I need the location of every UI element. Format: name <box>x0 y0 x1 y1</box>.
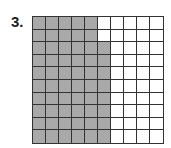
shaded-cell <box>85 93 98 106</box>
unshaded-cell <box>111 105 124 118</box>
shaded-cell <box>59 130 72 143</box>
shaded-cell <box>59 17 72 30</box>
unshaded-cell <box>137 105 150 118</box>
unshaded-cell <box>150 118 163 131</box>
hundred-grid <box>32 16 164 144</box>
shaded-cell <box>59 67 72 80</box>
shaded-cell <box>72 118 85 131</box>
unshaded-cell <box>111 30 124 43</box>
shaded-cell <box>33 130 46 143</box>
shaded-cell <box>33 80 46 93</box>
unshaded-cell <box>124 118 137 131</box>
shaded-cell <box>85 118 98 131</box>
shaded-cell <box>98 55 111 68</box>
shaded-cell <box>46 130 59 143</box>
unshaded-cell <box>124 80 137 93</box>
unshaded-cell <box>137 80 150 93</box>
shaded-cell <box>85 55 98 68</box>
unshaded-cell <box>124 30 137 43</box>
shaded-cell <box>33 67 46 80</box>
shaded-cell <box>85 42 98 55</box>
unshaded-cell <box>150 17 163 30</box>
unshaded-cell <box>124 130 137 143</box>
unshaded-cell <box>111 130 124 143</box>
unshaded-cell <box>137 118 150 131</box>
unshaded-cell <box>111 80 124 93</box>
shaded-cell <box>33 55 46 68</box>
shaded-cell <box>46 17 59 30</box>
problem-number: 3. <box>11 13 24 30</box>
unshaded-cell <box>124 93 137 106</box>
shaded-cell <box>72 80 85 93</box>
shaded-cell <box>59 30 72 43</box>
unshaded-cell <box>137 130 150 143</box>
shaded-cell <box>33 105 46 118</box>
shaded-cell <box>98 118 111 131</box>
shaded-cell <box>72 93 85 106</box>
shaded-cell <box>72 130 85 143</box>
unshaded-cell <box>137 55 150 68</box>
unshaded-cell <box>150 30 163 43</box>
unshaded-cell <box>124 105 137 118</box>
shaded-cell <box>59 105 72 118</box>
unshaded-cell <box>150 80 163 93</box>
unshaded-cell <box>98 17 111 30</box>
shaded-cell <box>72 105 85 118</box>
shaded-cell <box>85 130 98 143</box>
shaded-cell <box>59 118 72 131</box>
unshaded-cell <box>111 55 124 68</box>
unshaded-cell <box>150 42 163 55</box>
shaded-cell <box>85 17 98 30</box>
unshaded-cell <box>111 93 124 106</box>
unshaded-cell <box>137 30 150 43</box>
shaded-cell <box>46 105 59 118</box>
unshaded-cell <box>124 42 137 55</box>
shaded-cell <box>72 67 85 80</box>
shaded-cell <box>72 42 85 55</box>
shaded-cell <box>98 80 111 93</box>
shaded-cell <box>59 55 72 68</box>
shaded-cell <box>72 17 85 30</box>
shaded-cell <box>46 80 59 93</box>
shaded-cell <box>59 93 72 106</box>
unshaded-cell <box>137 42 150 55</box>
unshaded-cell <box>137 67 150 80</box>
shaded-cell <box>33 30 46 43</box>
shaded-cell <box>85 67 98 80</box>
shaded-cell <box>46 93 59 106</box>
shaded-cell <box>85 80 98 93</box>
unshaded-cell <box>150 130 163 143</box>
shaded-cell <box>98 93 111 106</box>
unshaded-cell <box>124 67 137 80</box>
shaded-cell <box>33 118 46 131</box>
shaded-cell <box>33 17 46 30</box>
shaded-cell <box>46 30 59 43</box>
shaded-cell <box>98 67 111 80</box>
shaded-cell <box>98 105 111 118</box>
unshaded-cell <box>137 93 150 106</box>
shaded-cell <box>59 42 72 55</box>
unshaded-cell <box>124 55 137 68</box>
shaded-cell <box>33 42 46 55</box>
unshaded-cell <box>150 105 163 118</box>
shaded-cell <box>98 130 111 143</box>
unshaded-cell <box>111 42 124 55</box>
shaded-cell <box>85 30 98 43</box>
unshaded-cell <box>111 17 124 30</box>
shaded-cell <box>46 67 59 80</box>
unshaded-cell <box>124 17 137 30</box>
shaded-cell <box>59 80 72 93</box>
shaded-cell <box>46 42 59 55</box>
shaded-cell <box>98 42 111 55</box>
unshaded-cell <box>111 67 124 80</box>
shaded-cell <box>46 118 59 131</box>
unshaded-cell <box>150 93 163 106</box>
shaded-cell <box>33 93 46 106</box>
unshaded-cell <box>150 67 163 80</box>
unshaded-cell <box>137 17 150 30</box>
shaded-cell <box>46 55 59 68</box>
unshaded-cell <box>98 30 111 43</box>
shaded-cell <box>85 105 98 118</box>
unshaded-cell <box>150 55 163 68</box>
unshaded-cell <box>111 118 124 131</box>
